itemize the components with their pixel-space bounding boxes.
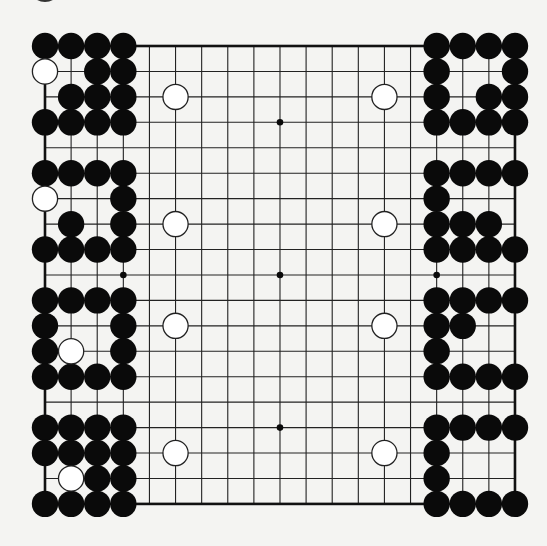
black-stone [450, 414, 476, 440]
black-stone [32, 33, 58, 59]
black-stone [84, 440, 110, 466]
star-point-icon [433, 272, 440, 279]
black-stone [476, 33, 502, 59]
white-stone [163, 84, 188, 109]
black-stone [32, 338, 58, 364]
paper-background [0, 0, 547, 546]
white-stone [163, 313, 188, 338]
black-stone [58, 109, 84, 135]
black-stone [110, 414, 136, 440]
black-stone [110, 109, 136, 135]
black-stone [110, 33, 136, 59]
black-stone [423, 440, 449, 466]
black-stone [84, 58, 110, 84]
black-stone [476, 414, 502, 440]
black-stone [58, 440, 84, 466]
black-stone [502, 84, 528, 110]
go-board-diagram: Go board diagram [0, 0, 547, 546]
black-stone [502, 491, 528, 517]
black-stone [450, 160, 476, 186]
black-stone [423, 211, 449, 237]
black-stone [110, 465, 136, 491]
white-stone [372, 313, 397, 338]
black-stone [58, 211, 84, 237]
black-stone [32, 313, 58, 339]
white-stone [163, 440, 188, 465]
black-stone [110, 313, 136, 339]
black-stone [84, 414, 110, 440]
black-stone [502, 236, 528, 262]
black-stone [423, 313, 449, 339]
black-stone [423, 414, 449, 440]
black-stone [32, 160, 58, 186]
black-stone [110, 160, 136, 186]
white-stone [32, 186, 57, 211]
black-stone [58, 236, 84, 262]
black-stone [110, 58, 136, 84]
white-stone [372, 440, 397, 465]
black-stone [423, 338, 449, 364]
black-stone [502, 287, 528, 313]
black-stone [423, 160, 449, 186]
black-stone [32, 364, 58, 390]
black-stone [423, 236, 449, 262]
white-stone [163, 211, 188, 236]
black-stone [84, 491, 110, 517]
black-stone [450, 33, 476, 59]
black-stone [423, 109, 449, 135]
black-stone [476, 491, 502, 517]
star-point-icon [277, 119, 284, 126]
black-stone [476, 287, 502, 313]
black-stone [450, 364, 476, 390]
white-stone [372, 84, 397, 109]
black-stone [423, 465, 449, 491]
black-stone [502, 33, 528, 59]
black-stone [476, 109, 502, 135]
black-stone [84, 160, 110, 186]
black-stone [110, 287, 136, 313]
black-stone [110, 338, 136, 364]
black-stone [84, 465, 110, 491]
black-stone [84, 236, 110, 262]
black-stone [423, 287, 449, 313]
black-stone [110, 211, 136, 237]
black-stone [502, 58, 528, 84]
black-stone [32, 491, 58, 517]
black-stone [84, 33, 110, 59]
star-point-icon [277, 272, 284, 279]
black-stone [58, 491, 84, 517]
go-board [0, 0, 547, 546]
black-stone [32, 109, 58, 135]
black-stone [32, 414, 58, 440]
black-stone [84, 364, 110, 390]
black-stone [450, 109, 476, 135]
black-stone [58, 33, 84, 59]
black-stone [110, 364, 136, 390]
black-stone [502, 364, 528, 390]
black-stone [58, 287, 84, 313]
black-stone [423, 491, 449, 517]
black-stone [58, 364, 84, 390]
black-stone [110, 236, 136, 262]
black-stone [110, 185, 136, 211]
black-stone [110, 491, 136, 517]
star-point-icon [120, 272, 127, 279]
black-stone [110, 84, 136, 110]
black-stone [423, 33, 449, 59]
black-stone [423, 84, 449, 110]
black-stone [32, 287, 58, 313]
black-stone [32, 236, 58, 262]
black-stone [450, 236, 476, 262]
black-stone [450, 313, 476, 339]
black-stone [84, 109, 110, 135]
black-stone [84, 84, 110, 110]
black-stone [58, 414, 84, 440]
black-stone [58, 160, 84, 186]
white-stone [59, 339, 84, 364]
black-stone [502, 109, 528, 135]
black-stone [476, 211, 502, 237]
white-stone [59, 466, 84, 491]
black-stone [423, 58, 449, 84]
black-stone [502, 414, 528, 440]
white-stone [32, 59, 57, 84]
